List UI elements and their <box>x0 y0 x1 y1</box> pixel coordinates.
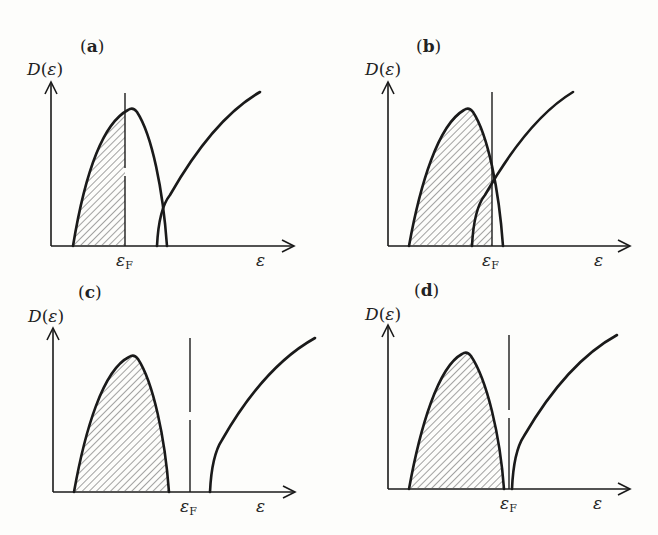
panel-label-d: (d) <box>414 280 439 300</box>
y-axis-label: D(ε) <box>27 306 64 326</box>
occupied-states-hatch <box>74 356 169 492</box>
panel-label-c: (c) <box>78 282 102 302</box>
upper-band-curve <box>157 92 260 246</box>
panel-label-a: (a) <box>80 36 104 56</box>
y-axis-label: D(ε) <box>364 59 401 79</box>
occupied-states-hatch <box>73 112 125 246</box>
x-axis-label: ε <box>256 496 265 516</box>
dos-figure: (a) D(ε) εF ε (b) D(ε) εF ε <box>0 0 658 535</box>
fermi-level-label: εF <box>180 496 197 518</box>
x-axis-label: ε <box>594 250 603 270</box>
x-axis-label: ε <box>593 493 602 513</box>
panel-a: (a) D(ε) εF ε <box>26 36 294 272</box>
panel-b: (b) D(ε) εF ε <box>364 36 630 272</box>
panel-d: (d) D(ε) εF ε <box>364 280 630 515</box>
y-axis-label: D(ε) <box>26 59 63 79</box>
occupied-states-hatch <box>409 353 504 489</box>
y-axis-label: D(ε) <box>364 304 401 324</box>
x-axis-label: ε <box>256 250 265 270</box>
fermi-level-label: εF <box>116 250 133 272</box>
fermi-level-label: εF <box>482 250 499 272</box>
occupied-states-hatch <box>409 109 503 246</box>
figure-caption <box>0 522 658 535</box>
fermi-level-label: εF <box>500 493 517 515</box>
upper-band-curve <box>210 338 315 492</box>
upper-band-curve <box>512 335 617 489</box>
panel-label-b: (b) <box>416 36 441 56</box>
panel-c: (c) D(ε) εF ε <box>27 282 315 518</box>
